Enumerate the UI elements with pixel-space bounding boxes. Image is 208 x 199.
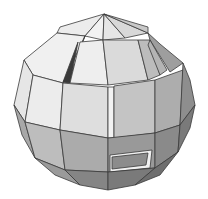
facet xyxy=(108,87,114,138)
upper-band xyxy=(24,33,183,85)
polyhedron-figure xyxy=(0,0,208,199)
facet xyxy=(155,70,183,133)
facet xyxy=(60,83,108,138)
faceted-sphere-drawing xyxy=(0,0,208,199)
facet xyxy=(114,80,155,138)
